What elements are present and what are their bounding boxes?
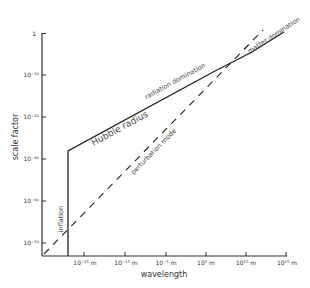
y-tick-label: 10⁻²⁰ (23, 113, 39, 120)
y-tick-label: 10⁻⁵⁰ (23, 239, 39, 246)
y-tick-label: 10⁻³⁰ (23, 155, 39, 162)
y-tick-label: 1 (32, 30, 36, 37)
x-tick-label: 10⁵ m (197, 259, 215, 266)
cosmology-horizon-diagram: 1 10⁻¹⁰ 10⁻²⁰ 10⁻³⁰ 10⁻⁴⁰ 10⁻⁵⁰ 10⁻²⁵ m … (0, 0, 310, 288)
x-axis-title: wavelength (141, 270, 188, 279)
chart-svg: 1 10⁻¹⁰ 10⁻²⁰ 10⁻³⁰ 10⁻⁴⁰ 10⁻⁵⁰ 10⁻²⁵ m … (0, 0, 310, 288)
y-tick-label: 10⁻⁴⁰ (23, 197, 39, 204)
x-tick-label: 10⁻⁵ m (156, 259, 177, 266)
matter-domination-label: matter domination (246, 15, 301, 55)
inflation-label: inflation (57, 206, 65, 232)
x-tick-label: 10⁻²⁵ m (73, 259, 97, 266)
x-tick-label: 10⁻¹⁵ m (114, 259, 138, 266)
y-ticks: 1 10⁻¹⁰ 10⁻²⁰ 10⁻³⁰ 10⁻⁴⁰ 10⁻⁵⁰ (23, 30, 46, 246)
x-tick-label: 10¹⁵ m (236, 259, 256, 266)
x-tick-label: 10²⁵ m (277, 259, 297, 266)
perturbation-mode-label: perturbation mode (129, 127, 178, 176)
y-axis-title: scale factor (11, 113, 20, 160)
hubble-radius-label: Hubble radius (90, 109, 150, 148)
x-ticks: 10⁻²⁵ m 10⁻¹⁵ m 10⁻⁵ m 10⁵ m 10¹⁵ m 10²⁵… (73, 252, 297, 266)
y-tick-label: 10⁻¹⁰ (23, 71, 39, 78)
